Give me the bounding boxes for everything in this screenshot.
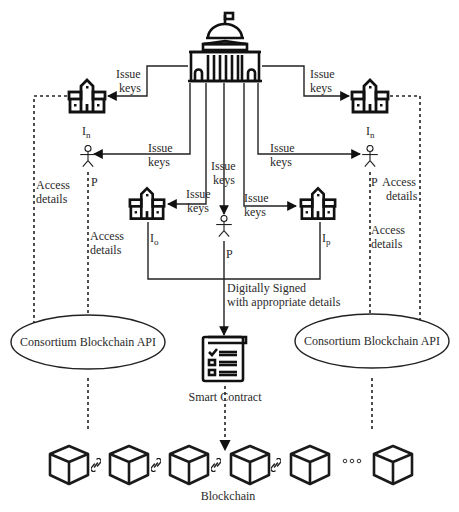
blockchain-blocks xyxy=(50,446,412,484)
consortium-blockchain-api-right[interactable]: Consortium Blockchain API xyxy=(295,314,449,368)
svg-text:keys: keys xyxy=(187,201,209,215)
government-building-icon xyxy=(188,13,262,81)
person-label-center: P xyxy=(226,247,233,261)
svg-text:Issue: Issue xyxy=(310,67,335,81)
issue-keys-label: Issue keys xyxy=(244,191,269,219)
access-details-label: details xyxy=(386,189,418,203)
person-label-left: P xyxy=(91,175,98,189)
issue-keys-arrow-right-top xyxy=(262,66,349,96)
person-icon xyxy=(216,215,232,236)
institution-label-io: Io xyxy=(150,231,159,247)
access-dashed-line-right-outer xyxy=(390,96,420,343)
block-cube-icon xyxy=(231,446,269,484)
issue-keys-label: Issue keys xyxy=(211,159,236,187)
institution-label-ip: Ip xyxy=(322,231,331,247)
issue-keys-label: Issue keys xyxy=(270,141,295,169)
svg-text:keys: keys xyxy=(310,81,332,95)
access-dashed-line-left-outer xyxy=(34,96,67,343)
svg-text:Issue: Issue xyxy=(211,159,236,173)
signed-label-line2: with appropriate details xyxy=(227,295,341,309)
svg-text:Issue: Issue xyxy=(244,191,269,205)
issue-keys-label: Issue keys xyxy=(186,187,211,215)
institution-label-in-right: In xyxy=(366,124,375,140)
svg-text:Issue: Issue xyxy=(116,67,141,81)
issue-keys-arrow-io xyxy=(168,83,206,204)
smart-contract-label: Smart Contract xyxy=(189,390,263,404)
ellipsis-dots-icon xyxy=(343,459,361,463)
issue-keys-label: Issue keys xyxy=(116,67,141,95)
access-details-label: details xyxy=(371,237,403,251)
block-cube-icon xyxy=(110,446,148,484)
blockchain-architecture-diagram: Issue keys Issue keys Issue keys Issue k… xyxy=(0,0,459,512)
svg-text:Consortium Blockchain API: Consortium Blockchain API xyxy=(20,335,156,349)
institution-building-icon xyxy=(130,188,164,218)
block-cube-icon xyxy=(291,446,329,484)
access-details-label: Access xyxy=(382,175,416,189)
svg-text:keys: keys xyxy=(119,81,141,95)
svg-text:keys: keys xyxy=(148,155,170,169)
access-details-label: Access xyxy=(90,229,124,243)
chain-link-icon xyxy=(271,459,281,472)
block-cube-icon xyxy=(170,446,208,484)
institution-label-in-left: In xyxy=(82,124,91,140)
svg-text:Issue: Issue xyxy=(186,187,211,201)
access-details-label: Access xyxy=(371,223,405,237)
blockchain-label: Blockchain xyxy=(201,489,256,503)
institution-building-icon xyxy=(352,80,388,112)
issue-keys-label: Issue keys xyxy=(148,141,173,169)
svg-text:Consortium Blockchain API: Consortium Blockchain API xyxy=(304,334,440,348)
svg-text:keys: keys xyxy=(244,205,266,219)
institution-building-icon xyxy=(301,188,335,218)
svg-text:keys: keys xyxy=(270,155,292,169)
svg-text:Issue: Issue xyxy=(148,141,173,155)
chain-link-icon xyxy=(91,459,101,472)
checklist-document-icon xyxy=(203,337,246,381)
institution-building-icon xyxy=(69,80,105,112)
access-details-label: Access xyxy=(36,178,70,192)
person-icon xyxy=(362,145,378,166)
chain-link-icon xyxy=(151,459,161,472)
issue-keys-arrow-left-person xyxy=(94,83,190,154)
chain-link-icon xyxy=(211,459,221,472)
person-icon xyxy=(80,145,96,166)
person-label-right: P xyxy=(371,175,378,189)
block-cube-icon xyxy=(50,446,88,484)
svg-text:keys: keys xyxy=(213,173,235,187)
block-cube-icon xyxy=(374,446,412,484)
access-details-label: details xyxy=(36,192,68,206)
signed-label-line1: Digitally Signed xyxy=(227,281,306,295)
signature-bracket-line xyxy=(148,222,320,279)
access-details-label: details xyxy=(90,243,122,257)
consortium-blockchain-api-left[interactable]: Consortium Blockchain API xyxy=(11,315,165,369)
svg-text:Issue: Issue xyxy=(270,141,295,155)
issue-keys-label: Issue keys xyxy=(310,67,335,95)
